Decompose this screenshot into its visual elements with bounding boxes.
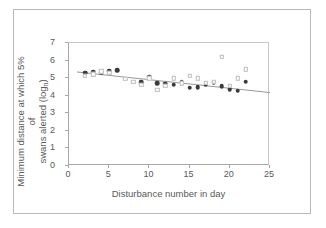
y-tick-mark	[65, 42, 68, 43]
y-axis-title-line1: Minimum distance at which 5% of	[15, 56, 37, 186]
x-tick-label: 0	[65, 170, 70, 179]
y-tick-mark	[65, 60, 68, 61]
y-tick-mark	[65, 112, 68, 113]
x-tick-label: 10	[143, 170, 153, 179]
y-tick-label: 7	[33, 38, 55, 47]
x-tick-mark	[269, 165, 270, 168]
y-tick-mark	[65, 147, 68, 148]
x-axis-title: Disturbance number in day	[68, 188, 269, 199]
y-tick-mark	[65, 130, 68, 131]
y-axis-title-line2: swans alerted (log	[37, 86, 48, 163]
x-tick-label: 25	[264, 170, 274, 179]
x-tick-mark	[189, 165, 190, 168]
x-tick-label: 5	[106, 170, 111, 179]
x-tick-label: 15	[184, 170, 194, 179]
x-tick-mark	[229, 165, 230, 168]
y-tick-mark	[65, 95, 68, 96]
y-axis-title-tail: )	[37, 79, 48, 82]
y-tick-mark	[65, 77, 68, 78]
x-tick-mark	[148, 165, 149, 168]
x-tick-mark	[108, 165, 109, 168]
x-tick-mark	[68, 165, 69, 168]
x-tick-label: 20	[224, 170, 234, 179]
y-axis-title-sub: n	[42, 83, 49, 87]
chart-figure: 01234567 0510152025 Disturbance number i…	[0, 0, 326, 228]
y-axis-title: Minimum distance at which 5% of swans al…	[15, 51, 52, 191]
